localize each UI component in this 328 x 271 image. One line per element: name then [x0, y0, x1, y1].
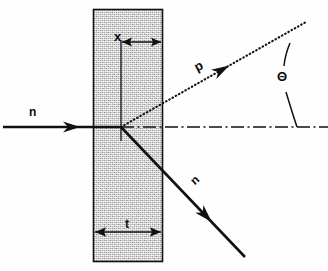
displaced-ray-arrowhead [211, 61, 232, 79]
lateral-shift-label: x [114, 30, 121, 43]
diagram-canvas [0, 0, 328, 271]
angle-label: Θ [277, 70, 287, 83]
angle-arc-upper [284, 43, 290, 66]
angle-arc-lower [286, 92, 297, 127]
optics-diagram: n x t p n Θ [0, 0, 328, 271]
incident-ray-label: n [29, 106, 36, 118]
thickness-label: t [125, 218, 129, 230]
refracted-ray [121, 127, 245, 257]
